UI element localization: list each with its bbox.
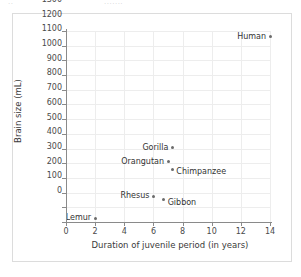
- gridline-horizontal: [66, 119, 270, 120]
- gridline-vertical: [270, 31, 271, 222]
- x-axis-tick: [241, 222, 242, 226]
- scatter-plot-area: HumanGorillaOrangutanChimpanzeeRhesusGib…: [66, 31, 270, 222]
- x-axis-tick-label: 6: [141, 227, 165, 236]
- gridline-vertical: [95, 31, 96, 222]
- y-axis-tick-label: 900: [28, 55, 62, 63]
- y-axis-tick-label: 600: [28, 99, 62, 107]
- data-point-label: Rhesus: [120, 191, 149, 200]
- gridline-horizontal: [66, 163, 270, 164]
- y-axis-tick: [62, 31, 66, 32]
- x-axis-title: Duration of juvenile period (in years): [56, 240, 284, 250]
- x-axis-tick: [66, 222, 67, 226]
- gridline-horizontal: [66, 46, 270, 47]
- y-axis-title: Brain size (mL): [13, 56, 23, 166]
- data-point-label: Lemur: [66, 213, 91, 222]
- data-point: [162, 198, 165, 201]
- x-axis-tick: [124, 222, 125, 226]
- x-axis-tick-label: 0: [54, 227, 78, 236]
- y-axis-tick-labels: 0100200300400500600700800900100011001200…: [24, 0, 62, 191]
- y-axis-tick-label: 700: [28, 84, 62, 92]
- y-axis-tick: [62, 104, 66, 105]
- y-axis-tick: [62, 60, 66, 61]
- data-point-label: Orangutan: [121, 157, 164, 166]
- x-axis-tick-label: 8: [171, 227, 195, 236]
- data-point: [152, 195, 155, 198]
- y-axis-tick: [62, 90, 66, 91]
- gridline-vertical: [183, 31, 184, 222]
- x-axis-tick-label: 14: [258, 227, 282, 236]
- gridline-horizontal: [66, 90, 270, 91]
- y-axis-tick-label: 1000: [28, 40, 62, 48]
- x-axis-tick: [95, 222, 96, 226]
- gridline-horizontal: [66, 104, 270, 105]
- data-point-label: Human: [237, 32, 266, 41]
- x-axis-tick: [212, 222, 213, 226]
- header-fragment-left: ..: [8, 0, 13, 6]
- gridline-vertical: [241, 31, 242, 222]
- y-axis-tick: [62, 207, 66, 208]
- y-axis-tick-label: 1300: [28, 0, 62, 4]
- data-point-label: Chimpanzee: [176, 167, 226, 176]
- y-axis-tick-label: 300: [28, 143, 62, 151]
- gridline-horizontal: [66, 75, 270, 76]
- y-axis-tick-label: 100: [28, 172, 62, 180]
- data-point: [171, 168, 174, 171]
- data-point-label: Gibbon: [168, 198, 197, 207]
- data-point-label: Gorilla: [142, 143, 168, 152]
- y-axis-tick-label: 400: [28, 128, 62, 136]
- y-axis-line: [66, 29, 67, 223]
- y-axis-tick: [62, 178, 66, 179]
- y-axis-tick: [62, 149, 66, 150]
- gridline-horizontal: [66, 134, 270, 135]
- y-axis-tick: [62, 163, 66, 164]
- gridline-horizontal: [66, 207, 270, 208]
- x-axis-tick-label: 12: [229, 227, 253, 236]
- gridline-vertical: [212, 31, 213, 222]
- gridline-horizontal: [66, 178, 270, 179]
- y-axis-tick: [62, 119, 66, 120]
- y-axis-tick: [62, 75, 66, 76]
- gridline-horizontal: [66, 60, 270, 61]
- y-axis-tick-label: 0: [28, 187, 62, 195]
- gridline-horizontal: [66, 193, 270, 194]
- gridline-vertical: [153, 31, 154, 222]
- y-axis-tick: [62, 134, 66, 135]
- data-point: [167, 160, 170, 163]
- data-point: [94, 217, 97, 220]
- y-axis-tick: [62, 46, 66, 47]
- y-axis-tick-label: 500: [28, 114, 62, 122]
- x-axis-tick-label: 2: [83, 227, 107, 236]
- x-axis-tick: [270, 222, 271, 226]
- y-axis-tick-label: 1200: [28, 11, 62, 19]
- x-axis-tick-label: 10: [200, 227, 224, 236]
- y-axis-tick-label: 800: [28, 69, 62, 77]
- y-axis-tick-label: 200: [28, 158, 62, 166]
- x-axis-tick-label: 4: [112, 227, 136, 236]
- header-fragment-right: .......: [104, 0, 123, 6]
- x-axis-tick: [183, 222, 184, 226]
- x-axis-tick: [153, 222, 154, 226]
- y-axis-tick-label: 1100: [28, 25, 62, 33]
- y-axis-tick: [62, 193, 66, 194]
